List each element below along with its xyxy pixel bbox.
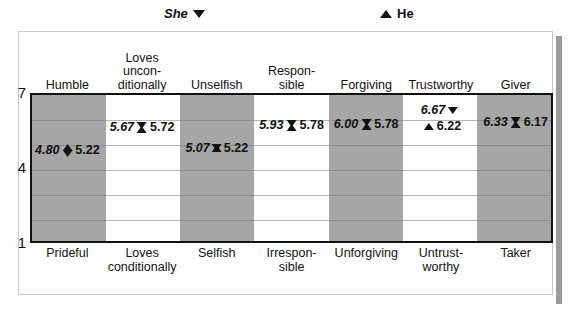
bottom-label-taker: Taker [478, 247, 553, 261]
data-point-giver: 6.33 6.17 [483, 115, 548, 129]
y-tick-1: 1 [6, 234, 26, 251]
bottom-label-prideful: Prideful [30, 247, 105, 261]
triangle-down-icon [193, 10, 205, 18]
bottom-label-unforgiving: Unforgiving [329, 247, 404, 261]
bottom-label-selfish: Selfish [179, 247, 254, 261]
triangle-up-icon [137, 126, 147, 133]
triangle-up-icon [380, 10, 392, 18]
data-point-responsible: 5.93 5.78 [259, 118, 324, 132]
top-label-unselfish: Unselfish [179, 79, 254, 93]
data-points-layer: 4.80 5.22 5.67 5.72 5.07 5.22 [30, 93, 553, 243]
chart-root: She He 7 4 1 Humble Loves uncon- ditiona… [0, 0, 573, 309]
bottom-label-loves-conditionally: Loves conditionally [105, 247, 180, 274]
value-he-giver: 6.17 [524, 115, 548, 129]
top-category-labels: Humble Loves uncon- ditionally Unselfish… [30, 52, 553, 92]
triangle-up-icon [212, 145, 222, 152]
legend-item-she: She [164, 6, 205, 21]
value-he-responsible: 5.78 [300, 118, 324, 132]
chart-legend: She He [0, 2, 573, 32]
marker-pair-giver [511, 117, 521, 128]
value-she-trustworthy: 6.67 [421, 103, 445, 117]
marker-pair-forgiving [361, 119, 371, 130]
card-shadow [556, 36, 562, 304]
value-he-loves-unconditionally: 5.72 [150, 120, 174, 134]
marker-pair-responsible [287, 120, 297, 131]
value-she-giver: 6.33 [483, 115, 507, 129]
y-tick-7: 7 [6, 84, 26, 101]
y-tick-4: 4 [6, 159, 26, 176]
triangle-up-icon [287, 124, 297, 131]
triangle-up-icon [424, 123, 434, 130]
value-he-humble: 5.22 [75, 143, 99, 157]
marker-pair-loves-unconditionally [137, 122, 147, 133]
value-he-trustworthy: 6.22 [437, 119, 461, 133]
value-he-unselfish: 5.22 [224, 141, 248, 155]
value-she-forgiving: 6.00 [334, 117, 358, 131]
triangle-up-icon [511, 121, 521, 128]
top-label-trustworthy: Trustworthy [404, 79, 479, 93]
legend-item-he: He [380, 6, 414, 21]
triangle-down-icon [448, 107, 458, 114]
value-she-unselfish: 5.07 [185, 141, 209, 155]
top-label-humble: Humble [30, 79, 105, 93]
data-point-trustworthy-she: 6.67 [421, 103, 461, 117]
bottom-label-untrustworthy: Untrust- worthy [404, 247, 479, 274]
bottom-category-labels: Prideful Loves conditionally Selfish Irr… [30, 247, 553, 291]
marker-pair-humble [62, 144, 72, 157]
data-point-unselfish: 5.07 5.22 [185, 141, 248, 155]
data-point-loves-unconditionally: 5.67 5.72 [110, 120, 175, 134]
data-point-forgiving: 6.00 5.78 [334, 117, 399, 131]
top-label-loves-unconditionally: Loves uncon- ditionally [105, 52, 180, 93]
value-she-responsible: 5.93 [259, 118, 283, 132]
triangle-down-icon [62, 150, 72, 157]
value-she-humble: 4.80 [35, 143, 59, 157]
triangle-up-icon [361, 123, 371, 130]
bottom-label-irresponsible: Irrespon- sible [254, 247, 329, 274]
top-label-giver: Giver [478, 79, 553, 93]
value-he-forgiving: 5.78 [374, 117, 398, 131]
data-point-humble: 4.80 5.22 [35, 143, 100, 157]
legend-label-he: He [397, 6, 414, 21]
data-point-trustworthy-he: 6.22 [421, 119, 461, 133]
value-she-loves-unconditionally: 5.67 [110, 120, 134, 134]
legend-label-she: She [164, 6, 188, 21]
marker-pair-unselfish [212, 144, 222, 152]
top-label-responsible: Respon- sible [254, 65, 329, 92]
top-label-forgiving: Forgiving [329, 79, 404, 93]
